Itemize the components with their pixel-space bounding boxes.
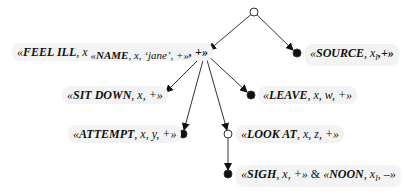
source-node <box>293 49 301 57</box>
feelill-label: «FEEL ILL, x «NAME, x, ‘jane’, +», +» <box>12 43 213 61</box>
source-tail: ,+» <box>378 46 394 60</box>
lookat-node <box>224 130 232 138</box>
edge-feelill-leave <box>205 53 247 92</box>
sigh-name: SIGH <box>247 167 276 181</box>
nested-name: NAME <box>96 49 128 61</box>
sitdown-label: «SIT DOWN, x, +» <box>62 86 168 104</box>
feelill-tail: , +» <box>189 45 208 59</box>
attempt-label: «ATTEMPT, x, y, +» <box>68 125 181 143</box>
lookat-label: «LOOK AT, x, z, +» <box>236 125 344 143</box>
sigh-node <box>224 170 232 178</box>
noon-name: NOON <box>329 167 364 181</box>
leave-name: LEAVE <box>269 88 307 102</box>
sigh-tail: , x, +» <box>276 167 307 181</box>
source-args: , x <box>364 46 375 60</box>
lookat-name: LOOK AT <box>247 127 297 141</box>
nested-rest: , x, ‘jane’, +» <box>128 49 189 61</box>
attempt-tail: , x, y, +» <box>134 127 176 141</box>
noon-tail: , –» <box>378 167 396 181</box>
sitdown-tail: , x, +» <box>131 88 162 102</box>
source-label: «SOURCE, xl,+» <box>305 44 399 66</box>
source-name: SOURCE <box>316 46 364 60</box>
lookat-tail: , x, z, +» <box>297 127 339 141</box>
feelill-name: FEEL ILL <box>23 45 76 59</box>
feelill-args: , x <box>76 45 87 59</box>
edge-feelill-lookat <box>205 53 227 130</box>
sitdown-name: SIT DOWN <box>73 88 131 102</box>
conjunction: & <box>308 167 323 181</box>
edge-feelill-attempt <box>184 53 205 130</box>
noon-args: , x <box>364 167 375 181</box>
edge-root-source <box>254 12 293 50</box>
attempt-name: ATTEMPT <box>79 127 134 141</box>
edge-root-feelill <box>209 12 254 50</box>
nested-name-term: «NAME, x, ‘jane’, +» <box>91 49 189 61</box>
root-node <box>250 8 258 16</box>
sigh-noon-label: «SIGH, x, +» & «NOON, xl, –» <box>236 165 401 187</box>
leave-tail: , x, w, +» <box>307 88 352 102</box>
leave-label: «LEAVE, x, w, +» <box>258 86 357 104</box>
leave-node <box>247 91 255 99</box>
